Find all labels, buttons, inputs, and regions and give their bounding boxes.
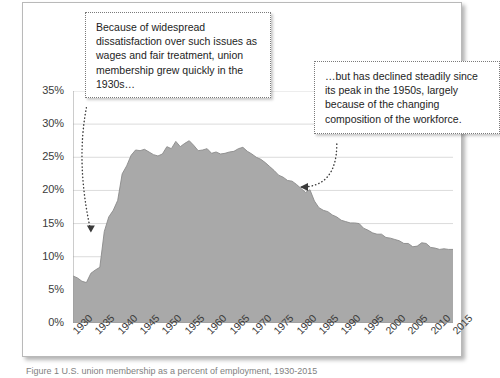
x-axis: 1930193519401945195019551960196519701975…: [23, 328, 463, 368]
figure-caption: Figure 1 U.S. union membership as a perc…: [26, 366, 466, 377]
y-axis: 0%5%10%15%20%25%30%35%: [23, 3, 73, 353]
y-axis-tick-label: 35%: [42, 84, 64, 96]
callout-left: Because of widespread dissatisfaction ov…: [85, 12, 271, 98]
callout-right: …but has declined steadily since its pea…: [314, 61, 500, 134]
slide-frame: 0%5%10%15%20%25%30%35% 19301935194019451…: [22, 2, 462, 357]
y-axis-tick-label: 30%: [42, 117, 64, 129]
x-axis-tick-label: 2015: [450, 312, 474, 336]
y-axis-tick-label: 10%: [42, 250, 64, 262]
y-axis-tick-label: 0%: [48, 316, 64, 328]
y-axis-tick-label: 20%: [42, 183, 64, 195]
y-axis-tick-label: 5%: [48, 283, 64, 295]
callout-left-text: Because of widespread dissatisfaction ov…: [96, 20, 261, 91]
y-axis-tick-label: 15%: [42, 217, 64, 229]
callout-right-text: …but has declined steadily since its pea…: [325, 69, 490, 126]
y-axis-tick-label: 25%: [42, 150, 64, 162]
